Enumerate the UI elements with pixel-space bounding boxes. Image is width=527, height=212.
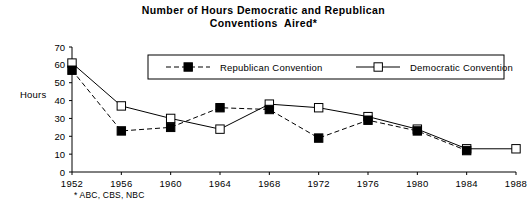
data-point-republican xyxy=(68,66,76,74)
data-point-democratic xyxy=(216,125,224,133)
data-point-democratic xyxy=(166,114,174,122)
x-tick-label: 1964 xyxy=(209,178,231,189)
data-point-republican xyxy=(462,146,470,154)
x-tick-label: 1976 xyxy=(357,178,379,189)
data-point-republican xyxy=(166,123,174,131)
data-point-democratic xyxy=(314,104,322,112)
chart-container: Number of Hours Democratic and Republica… xyxy=(0,0,527,212)
x-tick-label: 1988 xyxy=(505,178,527,189)
y-tick-label: 50 xyxy=(54,77,65,88)
legend-swatch-marker-democratic xyxy=(374,63,382,71)
y-tick-label: 30 xyxy=(54,113,65,124)
x-tick-label: 1984 xyxy=(455,178,477,189)
data-point-democratic xyxy=(117,102,125,110)
x-tick-label: 1960 xyxy=(159,178,181,189)
x-tick-label: 1952 xyxy=(61,178,83,189)
x-tick-label: 1980 xyxy=(406,178,428,189)
data-point-republican xyxy=(117,127,125,135)
x-tick-label: 1968 xyxy=(258,178,280,189)
legend-label-democratic: Democratic Convention xyxy=(410,62,513,73)
y-tick-label: 70 xyxy=(54,42,65,53)
data-point-republican xyxy=(364,116,372,124)
chart-plot-area: 0102030405060701952195619601964196819721… xyxy=(0,0,527,212)
data-point-republican xyxy=(265,105,273,113)
legend-swatch-marker-republican xyxy=(184,63,192,71)
y-tick-label: 10 xyxy=(54,149,65,160)
x-tick-label: 1956 xyxy=(110,178,132,189)
y-tick-label: 40 xyxy=(54,95,65,106)
y-tick-label: 20 xyxy=(54,131,65,142)
data-point-republican xyxy=(216,104,224,112)
data-point-republican xyxy=(413,127,421,135)
y-tick-label: 60 xyxy=(54,59,65,70)
data-point-democratic xyxy=(512,145,520,153)
x-tick-label: 1972 xyxy=(307,178,329,189)
y-tick-label: 0 xyxy=(60,167,65,178)
legend-label-republican: Republican Convention xyxy=(220,62,322,73)
chart-legend: Republican ConventionDemocratic Conventi… xyxy=(148,55,513,79)
data-point-republican xyxy=(314,134,322,142)
